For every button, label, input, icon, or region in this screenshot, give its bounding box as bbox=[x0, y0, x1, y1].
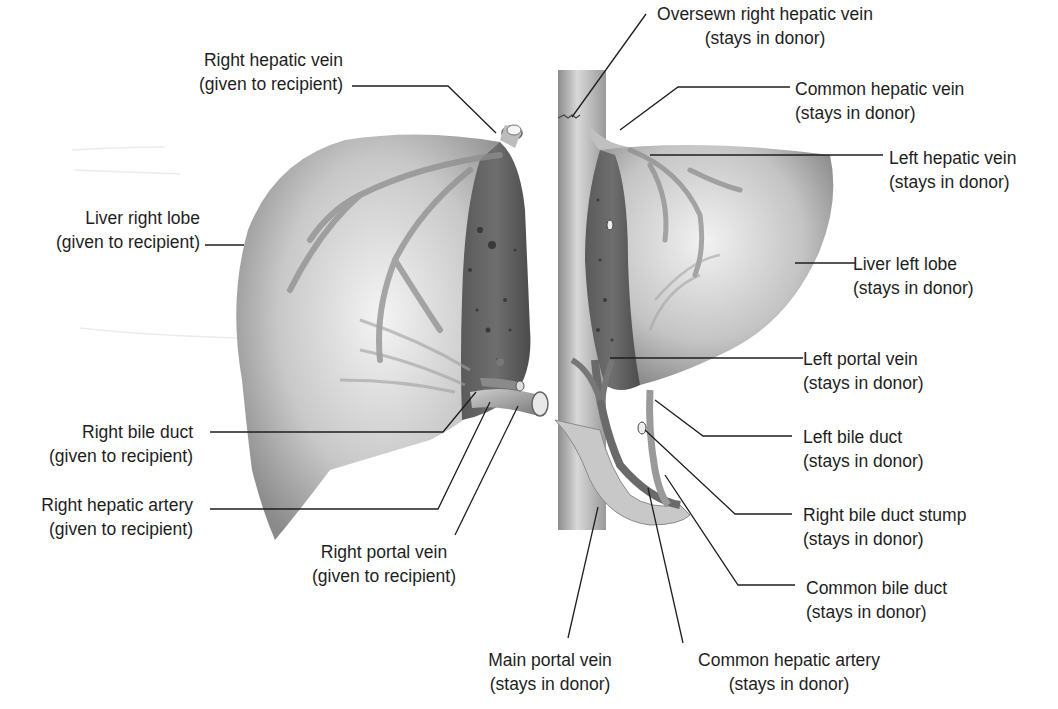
label-oversewn-right-hepatic-vein: Oversewn right hepatic vein (stays in do… bbox=[645, 2, 885, 50]
label-common-bile-duct: Common bile duct (stays in donor) bbox=[806, 576, 986, 624]
label-left-portal-vein: Left portal vein (stays in donor) bbox=[803, 347, 963, 395]
label-right-portal-vein: Right portal vein (given to recipient) bbox=[296, 540, 472, 588]
liver-right-lobe bbox=[236, 125, 548, 540]
label-common-hepatic-vein: Common hepatic vein (stays in donor) bbox=[795, 77, 995, 125]
label-liver-right-lobe: Liver right lobe (given to recipient) bbox=[18, 206, 200, 254]
label-liver-left-lobe: Liver left lobe (stays in donor) bbox=[853, 252, 1013, 300]
label-left-bile-duct: Left bile duct (stays in donor) bbox=[803, 425, 963, 473]
liver-transplant-diagram: Right hepatic vein (given to recipient) … bbox=[0, 0, 1058, 709]
label-right-hepatic-artery: Right hepatic artery (given to recipient… bbox=[4, 493, 193, 541]
liver-left-lobe bbox=[585, 145, 833, 390]
label-right-hepatic-vein: Right hepatic vein (given to recipient) bbox=[148, 48, 343, 96]
label-left-hepatic-vein: Left hepatic vein (stays in donor) bbox=[889, 146, 1054, 194]
label-right-bile-duct-stump: Right bile duct stump (stays in donor) bbox=[803, 503, 1003, 551]
label-common-hepatic-artery: Common hepatic artery (stays in donor) bbox=[676, 648, 902, 696]
label-right-bile-duct: Right bile duct (given to recipient) bbox=[10, 420, 193, 468]
label-main-portal-vein: Main portal vein (stays in donor) bbox=[470, 648, 630, 696]
